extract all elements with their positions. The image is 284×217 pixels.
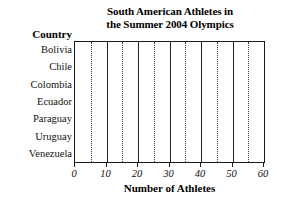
chart-title: South American Athletes in the Summer 20… <box>74 5 266 30</box>
category-label-venezuela: Venezuela <box>0 148 72 159</box>
value-axis-title: Number of Athletes <box>74 182 265 195</box>
chart-title-line-2: the Summer 2004 Olympics <box>74 18 266 31</box>
value-axis-label-10: 10 <box>91 168 121 180</box>
chart-figure: South American Athletes in the Summer 20… <box>0 0 284 217</box>
gridline-minor-45 <box>217 42 218 162</box>
value-axis-label-50: 50 <box>217 168 247 180</box>
value-axis-tick-10 <box>106 163 107 167</box>
gridline-minor-5 <box>91 42 92 162</box>
category-axis: Bolivia Chile Colombia Ecuador Paraguay … <box>0 41 72 163</box>
category-label-paraguay: Paraguay <box>0 113 72 124</box>
category-label-bolivia: Bolivia <box>0 44 72 55</box>
value-axis-label-20: 20 <box>122 168 152 180</box>
category-label-colombia: Colombia <box>0 79 72 90</box>
category-axis-title: Country <box>0 28 72 40</box>
value-axis-label-60: 60 <box>248 168 278 180</box>
value-axis-tick-60 <box>263 163 264 167</box>
gridline-major-10 <box>107 42 108 162</box>
gridline-minor-55 <box>248 42 249 162</box>
category-label-chile: Chile <box>0 61 72 72</box>
gridline-major-50 <box>233 42 234 162</box>
value-axis-tick-30 <box>169 163 170 167</box>
value-axis-tick-50 <box>232 163 233 167</box>
category-label-ecuador: Ecuador <box>0 96 72 107</box>
value-axis-label-40: 40 <box>185 168 215 180</box>
value-axis-tick-0 <box>74 163 75 167</box>
value-axis-tick-20 <box>137 163 138 167</box>
value-axis-label-30: 30 <box>154 168 184 180</box>
plot-area <box>74 41 265 163</box>
gridline-minor-35 <box>185 42 186 162</box>
value-axis-tick-40 <box>200 163 201 167</box>
gridline-minor-15 <box>122 42 123 162</box>
gridline-major-30 <box>170 42 171 162</box>
value-axis-label-0: 0 <box>59 168 89 180</box>
gridline-major-20 <box>138 42 139 162</box>
chart-title-line-1: South American Athletes in <box>74 5 266 18</box>
category-label-uruguay: Uruguay <box>0 131 72 142</box>
gridline-major-40 <box>201 42 202 162</box>
gridline-minor-25 <box>154 42 155 162</box>
